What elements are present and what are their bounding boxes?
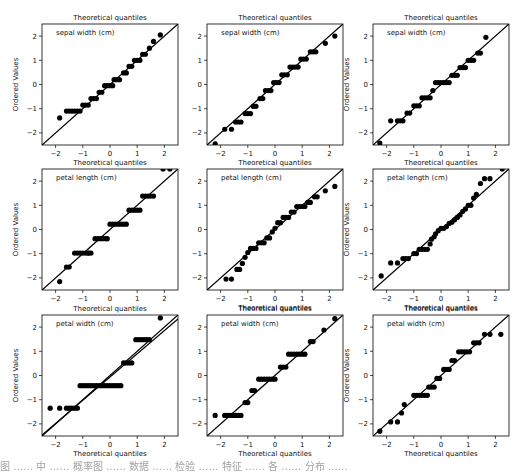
x-tick-label: −1 — [78, 150, 88, 158]
x-tick-label: 2 — [162, 441, 166, 449]
x-tick-label: 1 — [300, 150, 304, 158]
x-tick-label: 1 — [135, 150, 139, 158]
qq-subplot: Theoretical quantilesTheoretical quantil… — [343, 305, 509, 458]
y-tick-label: 0 — [364, 81, 368, 89]
y-tick-label: −2 — [358, 274, 368, 282]
y-tick-label: 2 — [364, 324, 368, 332]
feature-annotation: sepal width (cm) — [221, 29, 280, 37]
x-tick-label: −2 — [381, 441, 391, 449]
x-tick-label: 2 — [327, 441, 331, 449]
y-tick-label: −1 — [27, 250, 37, 258]
y-tick-label: −1 — [358, 105, 368, 113]
x-axis-label: Theoretical quantiles — [72, 450, 147, 458]
y-axis-label: Ordered Values — [343, 348, 351, 402]
y-tick-label: −2 — [192, 274, 202, 282]
x-tick-label: −1 — [243, 441, 253, 449]
x-tick-label: 2 — [162, 150, 166, 158]
y-tick-label: −1 — [27, 105, 37, 113]
y-tick-label: 1 — [33, 202, 37, 210]
x-tick-label: 1 — [300, 295, 304, 303]
x-tick-label: −2 — [381, 295, 391, 303]
y-tick-label: 2 — [33, 33, 37, 41]
x-tick-label: 0 — [108, 441, 112, 449]
x-tick-label: 0 — [273, 295, 277, 303]
feature-annotation: petal width (cm) — [56, 320, 114, 328]
y-tick-label: −1 — [192, 396, 202, 404]
feature-annotation: petal length (cm) — [56, 174, 117, 182]
subplot-title: Theoretical quantiles — [237, 14, 312, 22]
y-tick-label: 0 — [198, 226, 202, 234]
feature-annotation: petal length (cm) — [387, 174, 448, 182]
x-axis-label: Theoretical quantiles — [403, 450, 478, 458]
x-tick-label: 0 — [439, 441, 443, 449]
y-tick-label: −1 — [358, 250, 368, 258]
y-tick-label: 2 — [33, 178, 37, 186]
feature-annotation: petal width (cm) — [221, 320, 279, 328]
y-tick-label: 2 — [198, 178, 202, 186]
feature-annotation: sepal width (cm) — [56, 29, 115, 37]
y-tick-label: 1 — [198, 202, 202, 210]
y-tick-label: 1 — [364, 57, 368, 65]
x-tick-label: −1 — [243, 150, 253, 158]
x-tick-label: 1 — [300, 441, 304, 449]
y-tick-label: −2 — [192, 420, 202, 428]
x-tick-label: 1 — [466, 441, 470, 449]
reference-line — [42, 169, 178, 290]
subplot-title: Theoretical quantiles — [403, 14, 478, 22]
y-axis-label: Ordered Values — [12, 202, 20, 256]
y-tick-label: 0 — [364, 226, 368, 234]
y-tick-label: 1 — [364, 202, 368, 210]
qq-subplot: Theoretical quantilesTheoretical quantil… — [343, 159, 509, 312]
data-points — [377, 35, 488, 146]
x-tick-label: 1 — [466, 150, 470, 158]
qq-subplot: Theoretical quantiles−2−1012−2−1012sepal… — [192, 14, 343, 158]
data-points — [57, 32, 163, 120]
y-tick-label: −1 — [192, 105, 202, 113]
subplot-title: Theoretical quantiles — [72, 159, 147, 167]
y-tick-label: 0 — [33, 372, 37, 380]
x-tick-label: 0 — [439, 150, 443, 158]
y-tick-label: 2 — [198, 324, 202, 332]
y-tick-label: 0 — [198, 372, 202, 380]
x-tick-label: −2 — [50, 441, 60, 449]
subplot-title: Theoretical quantiles — [237, 305, 312, 313]
subplot-title: Theoretical quantiles — [237, 159, 312, 167]
data-points — [48, 315, 163, 410]
y-tick-label: 0 — [33, 81, 37, 89]
x-tick-label: 1 — [135, 441, 139, 449]
x-tick-label: 2 — [327, 295, 331, 303]
y-axis-label: Ordered Values — [343, 57, 351, 111]
x-tick-label: −2 — [381, 150, 391, 158]
data-points — [213, 316, 338, 418]
subplot-title: Theoretical quantiles — [403, 305, 478, 313]
subplot-title: Theoretical quantiles — [72, 14, 147, 22]
feature-annotation: petal length (cm) — [221, 174, 282, 182]
y-tick-label: −2 — [358, 420, 368, 428]
subplot-title: Theoretical quantiles — [72, 305, 147, 313]
y-tick-label: 0 — [364, 372, 368, 380]
y-tick-label: −2 — [27, 129, 37, 137]
y-tick-label: −2 — [27, 420, 37, 428]
x-axis-label: Theoretical quantiles — [237, 450, 312, 458]
y-tick-label: −1 — [27, 396, 37, 404]
y-tick-label: 2 — [364, 178, 368, 186]
y-tick-label: 0 — [198, 81, 202, 89]
x-tick-label: 1 — [135, 295, 139, 303]
y-tick-label: 2 — [364, 33, 368, 41]
qq-subplot: Theoretical quantilesOrdered Values−2−10… — [343, 14, 509, 158]
y-axis-label: Ordered Values — [12, 57, 20, 111]
y-tick-label: 0 — [33, 226, 37, 234]
data-points — [57, 166, 172, 284]
x-tick-label: −1 — [78, 441, 88, 449]
y-tick-label: 2 — [198, 33, 202, 41]
x-tick-label: 2 — [493, 295, 497, 303]
x-tick-label: −1 — [78, 295, 88, 303]
qq-subplot: Theoretical quantilesTheoretical quantil… — [192, 159, 343, 312]
x-tick-label: −1 — [243, 295, 253, 303]
data-points — [377, 332, 503, 434]
y-axis-label: Ordered Values — [12, 348, 20, 402]
y-tick-label: 1 — [33, 348, 37, 356]
y-axis-label: Ordered Values — [343, 202, 351, 256]
y-tick-label: 1 — [364, 348, 368, 356]
x-tick-label: 2 — [493, 441, 497, 449]
